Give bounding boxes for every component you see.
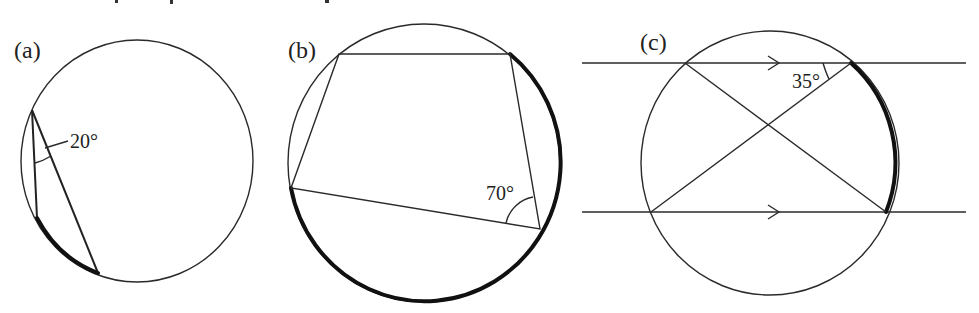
figure-c-label: (c) [640,29,667,55]
figure-b-highlighted-arc [291,54,561,301]
figure-c-chord-1 [685,63,886,212]
figure-a-angle-label: 20° [70,130,98,152]
figure-c-angle-arc [823,63,829,79]
figure-c-angle-label: 35° [792,70,820,92]
figure-b-angle-label: 70° [486,182,514,204]
figure-b: (b) 70° [288,24,561,302]
figure-c: (c) 35° [582,29,966,295]
clipped-heading [115,0,329,4]
figure-b-label: (b) [288,37,316,63]
figure-a-angle-arc [35,156,51,163]
figure-c-chord-2 [651,63,851,212]
figure-a: (a) 20° [14,37,253,282]
circle-theorem-diagrams: (a) 20° (b) 70° (c) 35° [0,0,979,313]
figure-a-label: (a) [14,37,41,63]
figure-a-angle-pointer [45,141,68,148]
figure-a-highlighted-arc [37,218,98,273]
figure-c-highlighted-arc [851,63,895,212]
figure-a-chord-1 [32,110,37,218]
